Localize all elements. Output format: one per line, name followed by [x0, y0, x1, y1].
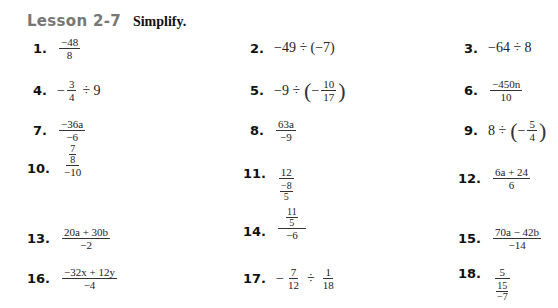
sign: −: [518, 123, 526, 139]
paren: (: [510, 120, 517, 142]
numerator: 6a + 24: [493, 166, 530, 179]
fraction: 1017: [321, 78, 336, 103]
problem-15: 15. 70a − 42b−14: [458, 226, 543, 251]
fraction: 20a + 30b−2: [62, 226, 110, 251]
problem-number: 16.: [27, 271, 50, 286]
denominator: −4: [82, 279, 98, 291]
complex-fraction: 5 15−7: [493, 266, 512, 302]
problem-number: 5.: [250, 83, 264, 98]
problem-1: 1. −488: [33, 36, 82, 61]
problem-number: 10.: [27, 161, 50, 176]
expression: 8 ÷ ( − 54 ): [488, 118, 546, 143]
denominator: 10: [499, 91, 514, 103]
sign: −: [311, 83, 319, 99]
complex-fraction: 78 −10: [62, 142, 83, 178]
problem-10: 10. 78 −10: [27, 142, 85, 178]
numerator: 115: [278, 205, 306, 229]
problem-number: 13.: [27, 231, 50, 246]
denominator: −85: [278, 179, 295, 202]
fraction: −32x + 12y−4: [62, 266, 117, 291]
inner-denominator: 5: [282, 192, 291, 202]
fraction: 63a−9: [276, 118, 296, 143]
fraction: 54: [527, 118, 537, 143]
fraction: 118: [321, 266, 336, 291]
problem-number: 17.: [243, 271, 266, 286]
numerator: 3: [67, 78, 77, 91]
problem-number: 1.: [33, 41, 47, 56]
denominator: −10: [62, 166, 83, 178]
numerator: 12: [279, 166, 294, 179]
problem-7: 7. −36a−6: [33, 118, 87, 143]
numerator: 1: [323, 266, 333, 279]
numerator: −32x + 12y: [62, 266, 117, 279]
denominator: 6: [507, 179, 517, 191]
fraction: −36a−6: [59, 118, 85, 143]
expression: −9 ÷ ( − 1017 ): [274, 78, 346, 103]
numerator: 20a + 30b: [62, 226, 110, 239]
sign: −: [276, 271, 284, 287]
problem-number: 14.: [243, 224, 266, 239]
numerator: 63a: [276, 118, 296, 131]
fraction: 6a + 246: [493, 166, 530, 191]
numerator: −48: [59, 36, 80, 49]
instruction: Simplify.: [133, 14, 186, 30]
problem-16: 16. −32x + 12y−4: [27, 266, 119, 291]
fraction: −450n10: [490, 78, 522, 103]
lesson-header: Lesson 2-7 Simplify.: [27, 12, 186, 30]
problem-number: 15.: [458, 231, 481, 246]
numerator: −36a: [59, 118, 85, 131]
paren: ): [539, 120, 546, 142]
problem-number: 4.: [33, 83, 47, 98]
expression: − 34 ÷ 9: [57, 78, 105, 103]
denominator: 4: [527, 131, 537, 143]
paren: (: [304, 80, 311, 102]
problem-number: 6.: [464, 83, 478, 98]
denominator: −6: [284, 229, 300, 241]
numerator: 78: [66, 142, 79, 166]
inner-denominator: 8: [68, 155, 77, 165]
problem-number: 7.: [33, 123, 47, 138]
denominator: −9: [278, 131, 294, 143]
inner-denominator: −7: [495, 292, 510, 302]
denominator: 8: [65, 49, 75, 61]
problem-9: 9. 8 ÷ ( − 54 ): [464, 118, 546, 143]
operator: ÷: [307, 271, 315, 287]
inner-denominator: 5: [287, 218, 296, 228]
problem-4: 4. − 34 ÷ 9: [33, 78, 105, 103]
dividend: 8 ÷: [488, 123, 506, 139]
denominator: 4: [67, 91, 77, 103]
numerator: 5: [495, 266, 511, 279]
problem-2: 2. −49 ÷ (−7): [250, 40, 335, 56]
problem-17: 17. − 712 ÷ 118: [243, 266, 338, 291]
problem-number: 3.: [464, 41, 478, 56]
numerator: 70a − 42b: [493, 226, 541, 239]
expression: − 712 ÷ 118: [276, 266, 338, 291]
problem-number: 12.: [458, 171, 481, 186]
dividend: −9 ÷: [274, 83, 300, 99]
numerator: 5: [527, 118, 537, 131]
problem-18: 18. 5 15−7: [458, 266, 514, 302]
complex-fraction: 115 −6: [278, 205, 306, 241]
problem-number: 9.: [464, 123, 478, 138]
problem-13: 13. 20a + 30b−2: [27, 226, 112, 251]
denominator: 12: [286, 279, 301, 291]
problem-6: 6. −450n10: [464, 78, 524, 103]
denominator: 17: [321, 91, 336, 103]
complex-fraction: 12 −85: [278, 166, 295, 202]
sign: −: [57, 83, 65, 99]
problem-number: 11.: [243, 166, 266, 181]
problem-14: 14. 115 −6: [243, 205, 308, 241]
problem-number: 8.: [250, 123, 264, 138]
numerator: 7: [289, 266, 299, 279]
denominator: 18: [321, 279, 336, 291]
problem-12: 12. 6a + 246: [458, 166, 532, 191]
problem-11: 11. 12 −85: [243, 166, 297, 202]
denominator: 15−7: [493, 279, 512, 302]
problem-8: 8. 63a−9: [250, 118, 298, 143]
numerator: 10: [321, 78, 336, 91]
problem-number: 2.: [250, 41, 264, 56]
denominator: −2: [78, 239, 94, 251]
problem-5: 5. −9 ÷ ( − 1017 ): [250, 78, 346, 103]
paren: ): [338, 80, 345, 102]
denominator: −14: [506, 239, 527, 251]
